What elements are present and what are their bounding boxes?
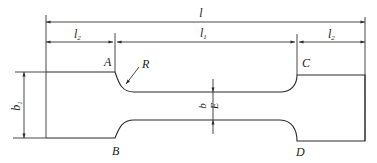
grip-right-label: l2: [328, 27, 335, 42]
thickness-marker-label: E: [209, 103, 220, 110]
grip-width-label: b1: [9, 101, 24, 111]
gauge-length-label: l1: [200, 26, 207, 41]
overall-length-dimension: l: [46, 6, 365, 22]
overall-length-label: l: [199, 6, 203, 20]
radius-leader-line: [126, 67, 139, 84]
grip-left-label: l2: [74, 27, 81, 42]
point-b-label: B: [112, 144, 120, 158]
point-d-label: D: [295, 145, 305, 159]
extension-lines: [13, 15, 365, 141]
segment-dimensions: l2 l1 l2: [46, 26, 365, 42]
radius-label: R: [141, 57, 150, 71]
gauge-width-label: b: [196, 103, 208, 109]
fillet-radius-callout: R: [126, 57, 150, 84]
grip-width-dimension: b1: [9, 72, 24, 138]
gauge-width-dimension: b E: [196, 79, 220, 134]
specimen-diagram: l l2 l1 l2 R b1 b E A B C D: [0, 0, 377, 163]
point-a-label: A: [103, 55, 112, 69]
point-c-label: C: [302, 56, 311, 70]
